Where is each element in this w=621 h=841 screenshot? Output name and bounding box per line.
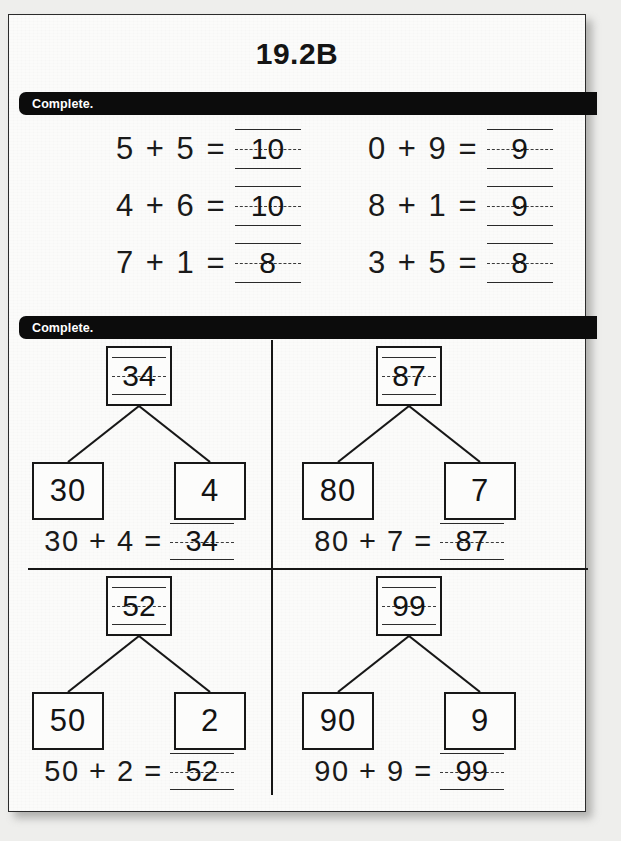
answer-value: 9	[487, 126, 553, 172]
answer-blank[interactable]: 52	[170, 750, 234, 793]
bond-part-left-box: 80	[302, 462, 374, 520]
bond-whole-value: 34	[108, 348, 170, 404]
bond-whole-value: 52	[108, 578, 170, 634]
equation-item: 5 + 5 = 10	[65, 126, 311, 172]
bond-whole-value: 87	[378, 348, 440, 404]
answer-blank[interactable]: 87	[440, 520, 504, 563]
equation-row: 7 + 1 = 8 3 + 5 = 8	[0, 240, 621, 297]
equation-item: 7 + 1 = 8	[65, 240, 311, 286]
bond-part-right-box: 7	[444, 462, 516, 520]
bond-part-left-box: 30	[32, 462, 104, 520]
bond-sentence-expression: 50 + 2 =	[44, 755, 162, 788]
answer-value: 34	[170, 520, 234, 563]
answer-blank[interactable]: 99	[440, 750, 504, 793]
equation-expression: 7 + 1 =	[116, 245, 227, 281]
bond-part-left-box: 50	[32, 692, 104, 750]
answer-value: 99	[440, 750, 504, 793]
equation-expression: 4 + 6 =	[116, 188, 227, 224]
bond-part-left-value: 90	[320, 703, 356, 739]
answer-value: 52	[170, 750, 234, 793]
equation-row: 4 + 6 = 10 8 + 1 = 9	[0, 183, 621, 240]
answer-blank[interactable]: 8	[235, 240, 301, 286]
bond-sentence-expression: 30 + 4 =	[44, 525, 162, 558]
number-bond-cell: 99 90 9 90 + 9 = 99	[280, 572, 538, 794]
bond-part-left-box: 90	[302, 692, 374, 750]
answer-blank[interactable]: 8	[487, 240, 553, 286]
bond-whole-box[interactable]: 34	[106, 346, 172, 406]
bond-whole-box[interactable]: 52	[106, 576, 172, 636]
bond-branch-lines	[10, 404, 268, 466]
answer-value: 87	[440, 520, 504, 563]
direction-banner-section-2: Complete.	[19, 316, 597, 339]
bond-whole-box[interactable]: 87	[376, 346, 442, 406]
direction-banner-section-1: Complete.	[19, 92, 597, 115]
bond-part-right-box: 4	[174, 462, 246, 520]
equation-expression: 8 + 1 =	[368, 188, 479, 224]
bond-number-sentence: 50 + 2 = 52	[10, 750, 268, 793]
equation-item: 4 + 6 = 10	[65, 183, 311, 229]
bond-part-left-value: 80	[320, 473, 356, 509]
bond-part-right-box: 9	[444, 692, 516, 750]
answer-value: 10	[235, 183, 301, 229]
answer-blank[interactable]: 34	[170, 520, 234, 563]
bond-number-sentence: 90 + 9 = 99	[280, 750, 538, 793]
bond-part-right-value: 9	[471, 703, 489, 739]
bond-part-right-box: 2	[174, 692, 246, 750]
answer-value: 10	[235, 126, 301, 172]
bond-part-right-value: 2	[201, 703, 219, 739]
answer-blank[interactable]: 10	[235, 183, 301, 229]
bond-branch-lines	[10, 634, 268, 696]
bond-sentence-expression: 90 + 9 =	[314, 755, 432, 788]
answer-value: 8	[487, 240, 553, 286]
equation-item: 0 + 9 = 9	[311, 126, 557, 172]
answer-blank[interactable]: 9	[487, 126, 553, 172]
bond-part-left-value: 30	[50, 473, 86, 509]
direction-label-section-2: Complete.	[32, 321, 93, 335]
direction-label-section-1: Complete.	[32, 97, 93, 111]
bond-number-sentence: 30 + 4 = 34	[10, 520, 268, 563]
bond-part-right-value: 4	[201, 473, 219, 509]
number-bonds-section: 34 30 4 30 + 4 = 34	[0, 340, 621, 798]
horizontal-divider	[28, 568, 588, 570]
equation-expression: 5 + 5 =	[116, 131, 227, 167]
bond-number-sentence: 80 + 7 = 87	[280, 520, 538, 563]
bond-branch-lines	[280, 634, 538, 696]
bond-branch-lines	[280, 404, 538, 466]
number-bond-cell: 87 80 7 80 + 7 = 87	[280, 342, 538, 564]
answer-value: 8	[235, 240, 301, 286]
equation-item: 8 + 1 = 9	[311, 183, 557, 229]
bond-whole-box[interactable]: 99	[376, 576, 442, 636]
equation-expression: 0 + 9 =	[368, 131, 479, 167]
addition-problems-section: 5 + 5 = 10 0 + 9 = 9 4 + 6 =	[0, 126, 621, 306]
answer-blank[interactable]: 9	[487, 183, 553, 229]
equation-expression: 3 + 5 =	[368, 245, 479, 281]
number-bond-cell: 34 30 4 30 + 4 = 34	[10, 342, 268, 564]
answer-value: 9	[487, 183, 553, 229]
bond-part-left-value: 50	[50, 703, 86, 739]
bond-sentence-expression: 80 + 7 =	[314, 525, 432, 558]
equation-item: 3 + 5 = 8	[311, 240, 557, 286]
answer-blank[interactable]: 10	[235, 126, 301, 172]
page-title: 19.2B	[9, 37, 585, 71]
number-bond-cell: 52 50 2 50 + 2 = 52	[10, 572, 268, 794]
equation-row: 5 + 5 = 10 0 + 9 = 9	[0, 126, 621, 183]
bond-part-right-value: 7	[471, 473, 489, 509]
bond-whole-value: 99	[378, 578, 440, 634]
